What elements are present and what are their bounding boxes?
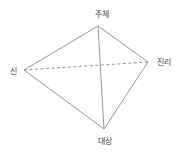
node-label-object: 대상 — [98, 137, 112, 147]
node-label-truth: 진리 — [157, 58, 171, 68]
diagram-canvas — [0, 0, 180, 155]
edge-subject-god — [24, 26, 98, 70]
edge-subject-object — [98, 26, 104, 129]
edge-subject-truth — [98, 26, 148, 62]
node-label-god: 신 — [10, 67, 17, 77]
edge-truth-object — [104, 62, 148, 129]
edges-group — [24, 26, 148, 129]
edge-god-truth — [24, 62, 148, 70]
node-label-subject: 주체 — [95, 10, 109, 20]
edge-god-object — [24, 70, 104, 129]
